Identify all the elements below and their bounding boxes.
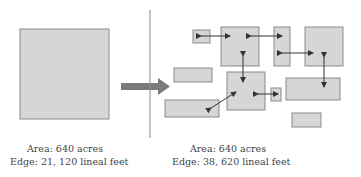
- fragmented-patches: [165, 27, 343, 127]
- patch: [174, 68, 212, 82]
- transition-arrow-icon: [121, 78, 170, 95]
- right-caption: Area: 640 acres Edge: 38, 620 lineal fee…: [172, 142, 284, 168]
- left-area-label: Area: 640 acres: [10, 142, 120, 155]
- left-caption: Area: 640 acres Edge: 21, 120 lineal fee…: [10, 142, 120, 168]
- patch: [221, 27, 259, 66]
- contiguous-habitat-block: [20, 29, 109, 119]
- patch: [274, 27, 290, 66]
- left-edge-label: Edge: 21, 120 lineal feet: [10, 155, 120, 168]
- patch: [286, 78, 340, 100]
- patch: [165, 100, 219, 117]
- right-area-label: Area: 640 acres: [172, 142, 284, 155]
- right-edge-label: Edge: 38, 620 lineal feet: [172, 155, 284, 168]
- patch: [227, 72, 265, 110]
- patch: [292, 113, 321, 127]
